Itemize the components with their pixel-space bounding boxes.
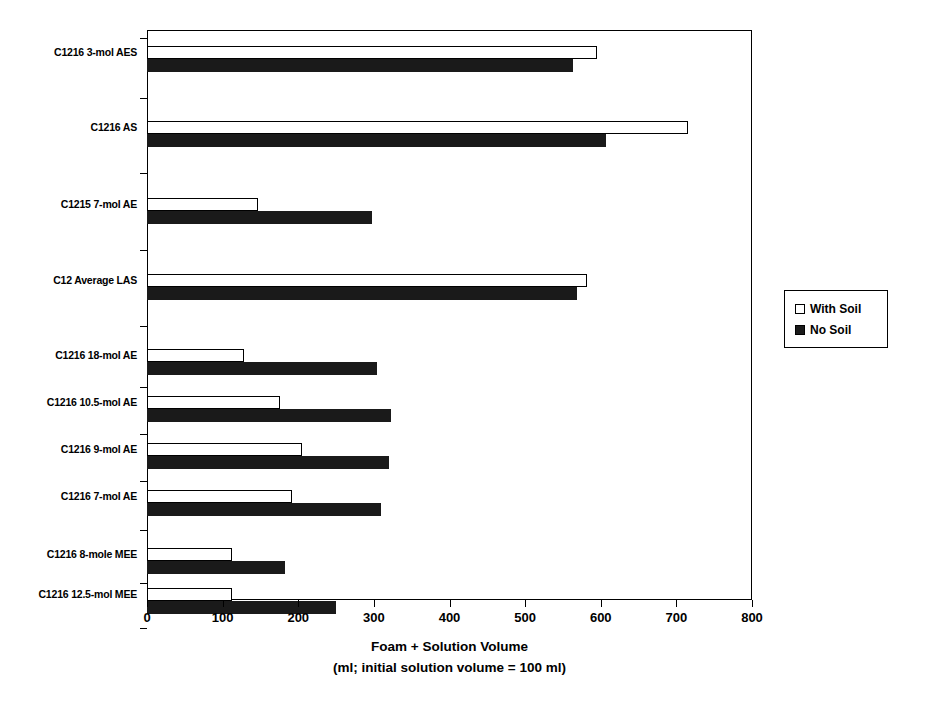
bar-with-soil [147,490,292,503]
x-axis-tick-label: 500 [514,610,536,625]
y-axis-label: C1216 10.5-mol AE [47,396,137,408]
x-axis-tick-label: 200 [287,610,309,625]
y-axis-tick [140,173,147,174]
legend-entry-with-soil: With Soil [795,298,887,319]
x-axis-tick [525,600,526,607]
x-axis-tick [147,600,148,607]
legend: With Soil No Soil [784,290,888,348]
bar-no-soil [147,362,377,375]
bar-no-soil [147,456,389,469]
x-axis-tick [374,600,375,607]
bar-with-soil [147,548,232,561]
legend-label-no-soil: No Soil [810,323,851,337]
x-axis-title: Foam + Solution Volume (ml; initial solu… [147,636,752,678]
x-axis-tick [601,600,602,607]
legend-swatch-no-soil-icon [795,325,805,335]
y-axis-tick [140,38,147,39]
x-axis-tick-label: 400 [439,610,461,625]
x-axis-tick-label: 800 [741,610,763,625]
bar-with-soil [147,349,244,362]
y-axis-label: C1216 3-mol AES [54,46,137,58]
bar-with-soil [147,274,587,287]
y-axis-tick [140,530,147,531]
bar-with-soil [147,396,280,409]
y-axis-tick [140,481,147,482]
y-axis-label: C1216 12.5-mol MEE [38,588,137,600]
legend-label-with-soil: With Soil [810,302,861,316]
x-axis-tick [298,600,299,607]
x-axis-title-line1: Foam + Solution Volume [147,636,752,657]
bar-no-soil [147,287,577,300]
bars-layer [147,30,752,600]
y-axis-tick [140,434,147,435]
y-axis-label: C1216 AS [91,121,137,133]
bar-no-soil [147,59,573,72]
x-axis-tick-label: 600 [590,610,612,625]
x-axis-title-line2: (ml; initial solution volume = 100 ml) [147,657,752,678]
bar-with-soil [147,198,258,211]
x-axis-tick-label: 0 [143,610,150,625]
y-axis-tick [140,250,147,251]
bar-no-soil [147,503,381,516]
x-axis-tick [450,600,451,607]
bar-with-soil [147,46,597,59]
y-axis-tick [140,98,147,99]
y-axis-tick [140,583,147,584]
y-axis-label: C1215 7-mol AE [61,198,137,210]
y-axis-tick [140,387,147,388]
y-axis-label: C1216 7-mol AE [61,490,137,502]
y-axis-category-labels: C1216 3-mol AESC1216 ASC1215 7-mol AEC12… [0,30,147,600]
x-axis-tick-label: 300 [363,610,385,625]
bar-with-soil [147,121,688,134]
x-axis-tick-label: 100 [212,610,234,625]
x-axis-tick [223,600,224,607]
y-axis-label: C12 Average LAS [53,274,137,286]
y-axis-tick [140,326,147,327]
y-axis-label: C1216 18-mol AE [55,349,137,361]
bar-with-soil [147,443,302,456]
y-axis-label: C1216 8-mole MEE [47,548,137,560]
x-axis-ticks: 0100200300400500600700800 [147,600,752,640]
x-axis-tick-label: 700 [666,610,688,625]
bar-no-soil [147,409,391,422]
legend-swatch-with-soil-icon [795,304,805,314]
bar-no-soil [147,211,372,224]
bar-chart: C1216 3-mol AESC1216 ASC1215 7-mol AEC12… [0,0,927,709]
legend-entry-no-soil: No Soil [795,319,887,340]
y-axis-label: C1216 9-mol AE [61,443,137,455]
y-axis-tick [140,628,147,629]
x-axis-tick [752,600,753,607]
bar-no-soil [147,134,606,147]
bar-no-soil [147,561,285,574]
x-axis-tick [676,600,677,607]
